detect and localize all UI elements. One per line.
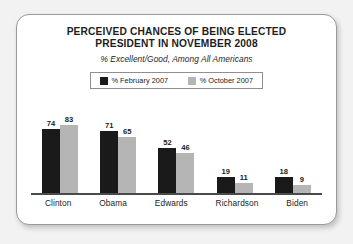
bar-value-label: 65 (123, 127, 131, 136)
bar-with-value: 74 (42, 115, 60, 193)
bar-with-value: 46 (176, 115, 194, 193)
bar-with-value: 65 (118, 115, 136, 193)
bar-group: 7165 (100, 115, 136, 193)
legend-item-february[interactable]: % February 2007 (100, 76, 168, 85)
bar[interactable] (60, 125, 78, 193)
bar-with-value: 19 (217, 115, 235, 193)
bar-group: 5246 (158, 115, 194, 193)
bar-with-value: 83 (60, 115, 78, 193)
plot-area: 7483716552461911189 (31, 115, 322, 193)
legend-label-october: % October 2007 (200, 76, 253, 85)
chart-title-line-1: PERCEIVED CHANCES OF BEING ELECTED (27, 26, 326, 38)
legend-item-october[interactable]: % October 2007 (188, 76, 253, 85)
bar[interactable] (100, 131, 118, 193)
bar-value-label: 18 (280, 167, 288, 176)
chart-card: PERCEIVED CHANCES OF BEING ELECTED PRESI… (16, 14, 337, 225)
bar-group: 7483 (42, 115, 78, 193)
bar-with-value: 71 (100, 115, 118, 193)
legend-label-february: % February 2007 (111, 76, 168, 85)
x-axis-label: Edwards (155, 198, 188, 208)
bar[interactable] (42, 129, 60, 193)
bar-group: 1911 (217, 115, 253, 193)
chart-subtitle: % Excellent/Good, Among All Americans (17, 54, 336, 64)
bar-value-label: 19 (221, 167, 229, 176)
bar[interactable] (176, 153, 194, 193)
bar[interactable] (293, 185, 311, 193)
bar-with-value: 9 (293, 115, 311, 193)
chart-title: PERCEIVED CHANCES OF BEING ELECTED PRESI… (17, 26, 336, 51)
chart-title-line-2: PRESIDENT IN NOVEMBER 2008 (27, 38, 326, 50)
bar-group: 189 (275, 115, 311, 193)
bar[interactable] (158, 148, 176, 193)
bar-with-value: 18 (275, 115, 293, 193)
legend-wrapper: % February 2007 % October 2007 (17, 72, 336, 89)
bar-groups: 7483716552461911189 (31, 115, 322, 193)
x-axis-label: Obama (99, 198, 127, 208)
bar-value-label: 46 (181, 143, 189, 152)
bar[interactable] (235, 183, 253, 193)
bar-value-label: 9 (300, 175, 304, 184)
x-axis-label: Clinton (45, 198, 72, 208)
bar[interactable] (118, 137, 136, 193)
bar[interactable] (217, 177, 235, 193)
bar-with-value: 52 (158, 115, 176, 193)
bar[interactable] (275, 177, 293, 193)
legend-swatch-icon-february (100, 77, 108, 85)
x-axis-line (31, 193, 322, 195)
x-axis-label: Richardson (216, 198, 259, 208)
legend-swatch-icon-october (188, 77, 196, 85)
bar-value-label: 52 (163, 138, 171, 147)
bar-value-label: 74 (47, 119, 55, 128)
chart-legend: % February 2007 % October 2007 (90, 72, 263, 89)
bar-value-label: 83 (65, 115, 73, 124)
x-axis-label: Biden (286, 198, 308, 208)
bar-value-label: 11 (240, 173, 248, 182)
x-axis-category-labels: ClintonObamaEdwardsRichardsonBiden (31, 198, 322, 208)
bar-with-value: 11 (235, 115, 253, 193)
bar-value-label: 71 (105, 121, 113, 130)
